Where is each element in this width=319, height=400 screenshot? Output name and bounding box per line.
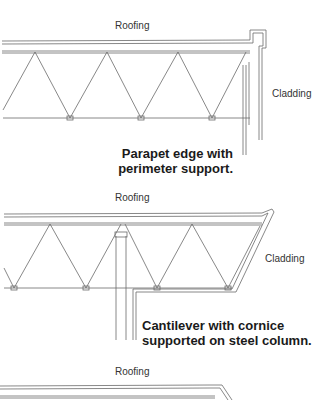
panel-third-drawing [0, 385, 232, 400]
caption-cantilever-line1: Cantilever with cornice [142, 318, 312, 333]
roofing-label-2: Roofing [115, 192, 149, 203]
caption-cantilever: Cantilever with cornice supported on ste… [142, 318, 312, 348]
caption-cantilever-line2: supported on steel column. [142, 333, 312, 348]
caption-parapet-line1: Parapet edge with [118, 146, 233, 161]
cladding-label-2: Cladding [265, 253, 304, 264]
cladding-label-1: Cladding [272, 88, 311, 99]
roofing-label-3: Roofing [115, 366, 149, 377]
panel-parapet-drawing [2, 30, 266, 155]
roofing-label-1: Roofing [115, 20, 149, 31]
caption-parapet-line2: perimeter support. [118, 161, 233, 176]
caption-parapet: Parapet edge with perimeter support. [118, 146, 233, 176]
